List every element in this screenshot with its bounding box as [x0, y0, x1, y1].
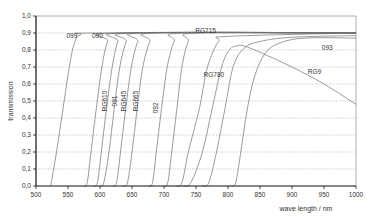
- curve-093: [231, 38, 356, 187]
- axes: [33, 16, 356, 189]
- x-tick-label: 600: [95, 191, 106, 198]
- curve-rg9: [183, 45, 356, 186]
- x-tick-label: 700: [159, 191, 170, 198]
- x-tick-label: 500: [31, 191, 42, 198]
- x-tick-label: 650: [127, 191, 138, 198]
- curve-rg715: [164, 32, 356, 186]
- curve-label-rg780: RG780: [204, 71, 225, 78]
- x-tick-label: 1000: [349, 191, 364, 198]
- y-tick-label: 1,0: [22, 12, 31, 19]
- x-tick-label: 800: [223, 191, 234, 198]
- transmission-chart: 0,00,10,20,30,40,50,60,70,80,91,0 500550…: [0, 0, 376, 217]
- curve-label-rg9: RG9: [308, 68, 322, 75]
- y-tick-labels: 0,00,10,20,30,40,50,60,70,80,91,0: [22, 12, 31, 189]
- curve-label-rg610: RG610: [101, 90, 108, 111]
- y-tick-label: 0,1: [22, 165, 31, 172]
- curve-label-099: 099: [66, 32, 77, 39]
- curves: [51, 32, 356, 186]
- y-tick-label: 0,3: [22, 131, 31, 138]
- curve-092: [149, 32, 356, 186]
- curve-label-rg645: RG645: [120, 90, 127, 111]
- x-tick-label: 850: [255, 191, 266, 198]
- y-tick-label: 0,0: [22, 182, 31, 189]
- y-tick-label: 0,7: [22, 63, 31, 70]
- x-axis-label: wave length / nm: [279, 205, 333, 213]
- curve-label-rg715: RG715: [195, 27, 216, 34]
- y-tick-label: 0,5: [22, 97, 31, 104]
- curve-labels: 099090RG610091RG645RG665092RG715RG780RG9…: [66, 27, 333, 113]
- y-tick-label: 0,8: [22, 46, 31, 53]
- curve-label-091: 091: [111, 95, 118, 106]
- y-tick-label: 0,9: [22, 29, 31, 36]
- y-tick-label: 0,2: [22, 148, 31, 155]
- y-tick-label: 0,6: [22, 80, 31, 87]
- x-tick-labels: 5005506006507007508008509009501000: [31, 191, 364, 198]
- x-tick-label: 950: [319, 191, 330, 198]
- curve-rg830-upper: [202, 36, 356, 187]
- x-tick-label: 550: [63, 191, 74, 198]
- curve-label-092: 092: [152, 102, 159, 113]
- grid-lines: [36, 16, 356, 186]
- x-tick-label: 750: [191, 191, 202, 198]
- curve-label-090: 090: [92, 32, 103, 39]
- y-tick-label: 0,4: [22, 114, 31, 121]
- curve-label-rg665: RG665: [132, 90, 139, 111]
- curve-rg645: [113, 32, 356, 186]
- curve-label-093: 093: [322, 44, 333, 51]
- y-axis-label: transmission: [7, 81, 14, 120]
- curve-rg780: [176, 33, 357, 186]
- chart-svg: 0,00,10,20,30,40,50,60,70,80,91,0 500550…: [0, 0, 376, 217]
- x-tick-label: 900: [287, 191, 298, 198]
